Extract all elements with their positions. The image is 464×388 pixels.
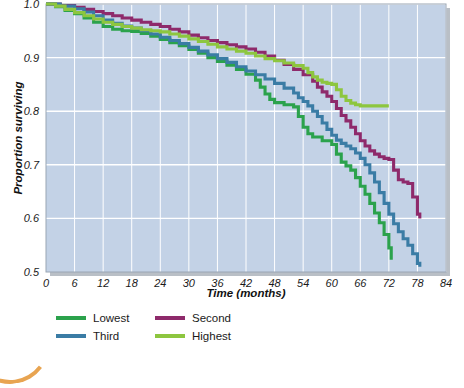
x-tick-label: 84: [440, 277, 452, 289]
y-tick-label: 0.5: [24, 266, 40, 278]
y-tick-label: 0.7: [24, 159, 40, 171]
x-tick-label: 66: [354, 277, 367, 289]
y-tick-label: 0.9: [24, 52, 39, 64]
y-axis-title: Proportion surviving: [12, 81, 24, 194]
x-tick-label: 72: [383, 277, 395, 289]
x-tick-label: 54: [297, 277, 309, 289]
x-axis-title: Time (months): [206, 287, 285, 299]
x-tick-label: 18: [126, 277, 139, 289]
x-tick-label: 12: [97, 277, 109, 289]
legend-label-third: Third: [93, 330, 119, 342]
legend: LowestSecondThirdHighest: [56, 312, 232, 342]
legend-label-lowest: Lowest: [93, 312, 130, 324]
legend-label-second: Second: [192, 312, 231, 324]
x-tick-label: 30: [183, 277, 196, 289]
x-tick-label: 6: [72, 277, 79, 289]
x-tick-label: 60: [326, 277, 339, 289]
y-tick-label: 0.8: [24, 105, 40, 117]
x-tick-label: 78: [411, 277, 424, 289]
x-tick-label: 24: [153, 277, 166, 289]
y-axis-tick-labels: 0.50.60.70.80.91.0: [24, 0, 40, 278]
x-tick-label: 0: [43, 277, 50, 289]
y-tick-label: 0.6: [24, 212, 40, 224]
legend-label-highest: Highest: [192, 330, 232, 342]
y-tick-label: 1.0: [24, 0, 40, 10]
